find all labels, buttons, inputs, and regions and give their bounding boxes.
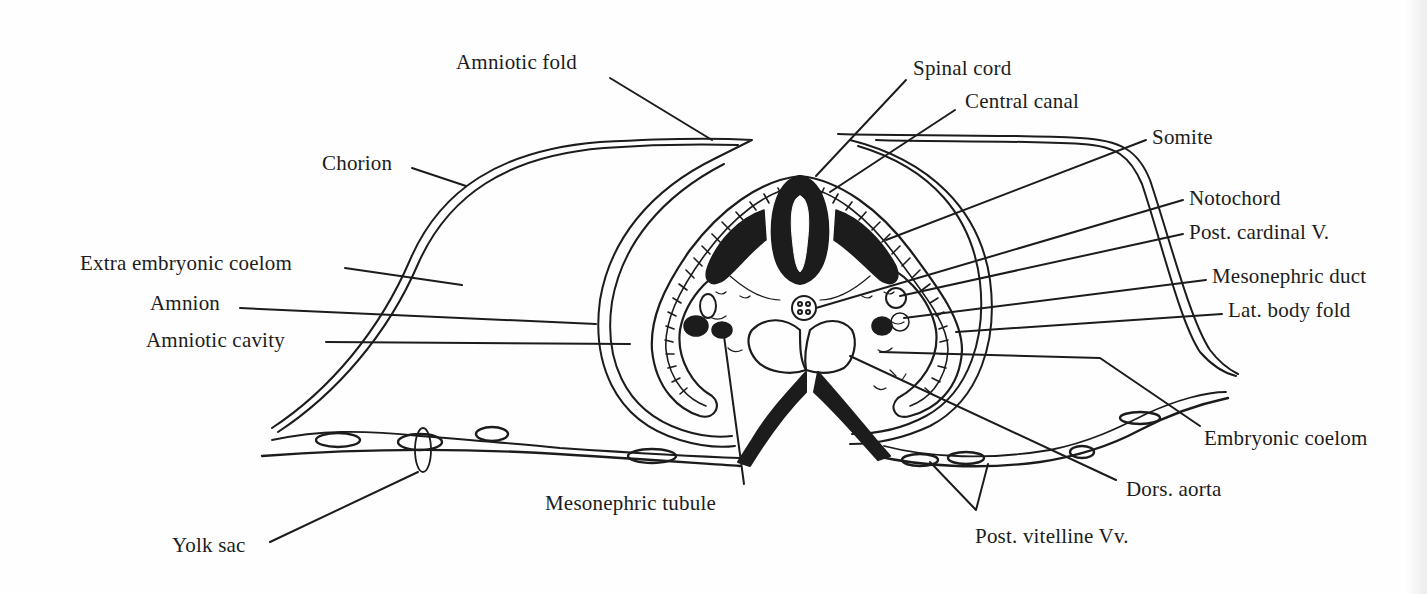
leader-mesonephric-tubule <box>724 336 744 484</box>
ventral-body-wall <box>738 372 890 466</box>
right-chorion <box>838 134 1238 376</box>
label-yolk-sac: Yolk sac <box>172 535 246 556</box>
leader-post-cardinal-v <box>900 234 1183 296</box>
leader-yolk-sac <box>270 472 418 542</box>
label-chorion: Chorion <box>322 153 392 174</box>
page-edge-shadow <box>1405 0 1427 594</box>
label-post-cardinal-v: Post. cardinal V. <box>1189 222 1329 243</box>
label-amniotic-fold: Amniotic fold <box>456 52 577 73</box>
label-mesonephric-tubule: Mesonephric tubule <box>545 493 716 514</box>
label-post-vitelline-vv: Post. vitelline Vv. <box>975 526 1129 547</box>
leader-extra-embryonic-coelom <box>345 268 462 285</box>
leader-somite <box>886 140 1146 240</box>
leader-central-canal <box>830 110 955 192</box>
label-embryonic-coelom: Embryonic coelom <box>1204 428 1368 449</box>
leader-lat-body-fold <box>956 314 1222 332</box>
label-central-canal: Central canal <box>965 91 1079 112</box>
label-amnion: Amnion <box>150 293 220 314</box>
leader-amnion <box>240 308 596 324</box>
label-somite: Somite <box>1152 127 1213 148</box>
cardinal-veins <box>700 288 906 318</box>
leader-lines <box>240 78 1222 542</box>
leader-spinal-cord <box>816 80 906 176</box>
label-mesonephric-duct: Mesonephric duct <box>1212 266 1366 287</box>
label-amniotic-cavity: Amniotic cavity <box>146 330 285 351</box>
notochord <box>792 296 816 320</box>
leader-post-vitelline-vv <box>930 462 988 510</box>
left-amnion <box>598 158 735 447</box>
dorsal-aortae <box>749 320 855 373</box>
label-notochord: Notochord <box>1189 188 1281 209</box>
label-lat-body-fold: Lat. body fold <box>1228 300 1350 321</box>
label-spinal-cord: Spinal cord <box>913 58 1011 79</box>
spinal-cord <box>772 176 829 284</box>
label-extra-embryonic-coelom: Extra embryonic coelom <box>80 253 292 274</box>
leader-amniotic-fold <box>610 78 712 140</box>
diagram-canvas: Amniotic fold Spinal cord Central canal … <box>0 0 1427 594</box>
label-dors-aorta: Dors. aorta <box>1126 479 1222 500</box>
leader-chorion <box>412 168 466 186</box>
